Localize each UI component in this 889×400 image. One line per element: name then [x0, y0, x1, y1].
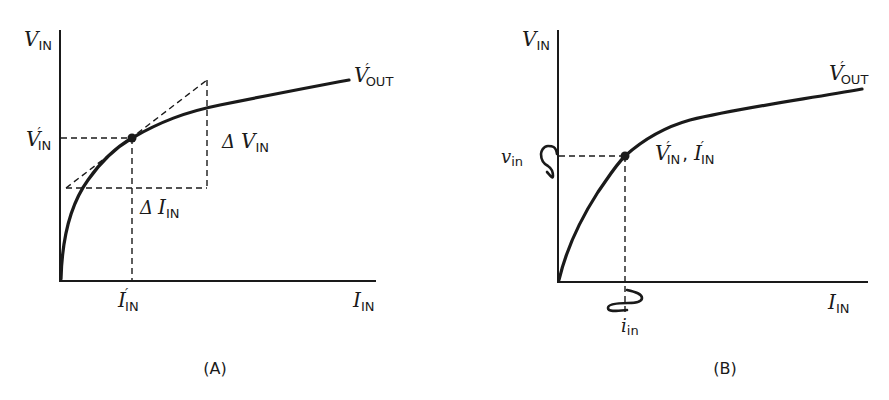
panel-a-caption: (A) [203, 359, 226, 378]
vin-waveform-icon [541, 146, 557, 177]
x-axis-label: IIN [352, 288, 374, 314]
operating-point [128, 134, 137, 143]
small-signal-v-label: vin [501, 146, 523, 169]
diagram-canvas: VIN V′IN V′OUT ΔVIN ΔIIN I′IN IIN (A) [0, 0, 889, 400]
panel-b: VIN vin V′IN,I′IN V′OUT iin IIN (B) [501, 27, 868, 378]
operating-point-label: V′IN,I′IN [655, 139, 715, 167]
delta-i-label: ΔIIN [139, 195, 179, 221]
x-axis-label: IIN [827, 290, 849, 316]
y-axis-label: VIN [24, 27, 52, 53]
characteristic-curve [559, 89, 862, 280]
operating-point [621, 152, 630, 161]
panel-a: VIN V′IN V′OUT ΔVIN ΔIIN I′IN IIN (A) [24, 27, 393, 378]
delta-v-label: ΔVIN [221, 129, 269, 155]
operating-i-label: I′IN [117, 286, 139, 314]
curve-label: V′OUT [354, 61, 393, 89]
curve-label: V′OUT [829, 59, 868, 87]
panel-b-caption: (B) [713, 359, 736, 378]
characteristic-curve [61, 80, 349, 279]
small-signal-i-label: iin [621, 315, 639, 338]
y-axis-label: VIN [522, 27, 550, 53]
operating-v-label: V′IN [26, 125, 51, 153]
